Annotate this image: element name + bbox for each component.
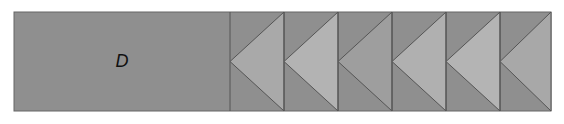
block-label: D: [116, 51, 129, 72]
label-block: D: [14, 12, 230, 111]
